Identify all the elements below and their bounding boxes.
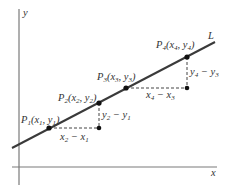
run-34-label: x4 − x3 — [145, 89, 175, 102]
rise-34-label: y4 − y3 — [189, 66, 219, 79]
line-L-label: L — [207, 30, 214, 41]
x-axis-label: x — [210, 167, 216, 178]
rise-12-label: y2 − y1 — [101, 109, 131, 122]
corner-34 — [185, 86, 190, 91]
point-p3 — [123, 85, 128, 90]
point-p2 — [96, 100, 101, 105]
slope-diagram: y x L P1(x1, y1) P2(x2, y2) P3(x3, y3) P… — [0, 0, 228, 191]
p1-label: P1(x1, y1) — [20, 114, 60, 127]
point-p1 — [46, 125, 51, 130]
point-p4 — [184, 54, 189, 59]
line-L — [12, 42, 215, 148]
y-axis-label: y — [22, 7, 28, 18]
run-12-label: x2 − x1 — [59, 131, 89, 144]
p4-label: P4(x4, y4) — [155, 39, 195, 52]
corner-12 — [97, 126, 102, 131]
p2-label: P2(x2, y2) — [57, 92, 97, 105]
p3-label: P3(x3, y3) — [96, 71, 136, 84]
